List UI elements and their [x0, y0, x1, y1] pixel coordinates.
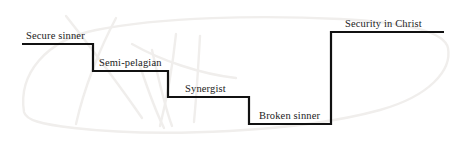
diagram-canvas: Secure sinner Semi-pelagian Synergist Br…	[0, 0, 456, 150]
step-label-synergist: Synergist	[185, 84, 226, 95]
step-label-secure-sinner: Secure sinner	[26, 31, 85, 42]
step-label-broken-sinner: Broken sinner	[259, 111, 320, 122]
step-label-security-in-christ: Security in Christ	[345, 19, 422, 30]
step-label-semi-pelagian: Semi-pelagian	[99, 58, 162, 69]
step-line	[22, 32, 444, 124]
